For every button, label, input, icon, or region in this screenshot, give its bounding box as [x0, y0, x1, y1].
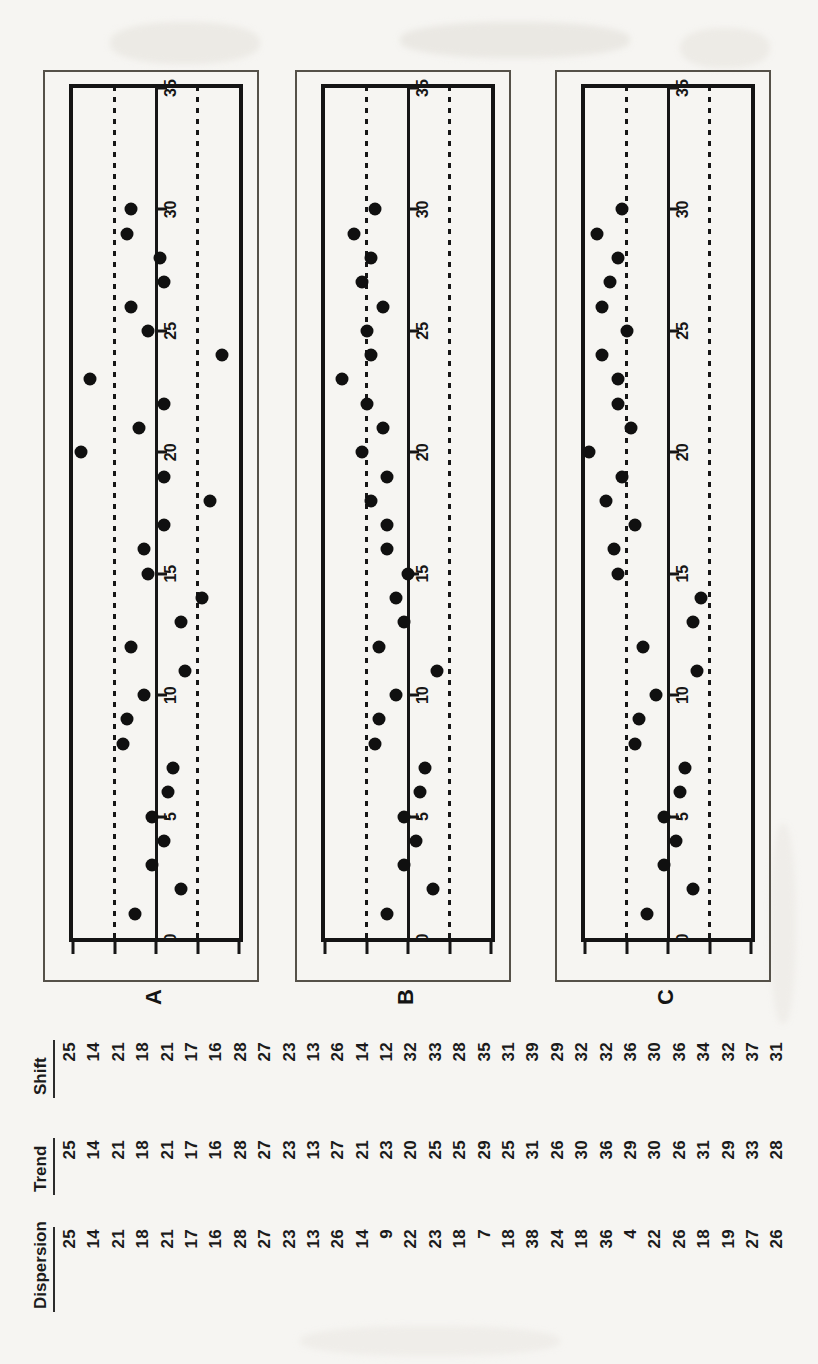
table-cell-shift: 14	[82, 1040, 106, 1098]
data-point	[137, 689, 150, 702]
table-cell-shift: 28	[448, 1040, 472, 1098]
data-point	[397, 859, 410, 872]
y-axis-tick	[750, 942, 753, 954]
data-point	[83, 373, 96, 386]
data-point	[120, 713, 133, 726]
plot-area-B: 05101520253035	[321, 84, 495, 942]
data-point	[397, 810, 410, 823]
x-axis-tick-label: 15	[675, 565, 691, 583]
table-cell-dispersion: 24	[546, 1227, 570, 1312]
column-cells-dispersion: 2514211821171628272313261492223187183824…	[58, 1227, 790, 1312]
rotated-page-content: Dispersion 25142118211716282723132614922…	[0, 0, 818, 1364]
table-cell-shift: 32	[595, 1040, 619, 1098]
table-cell-dispersion: 36	[595, 1227, 619, 1312]
data-point	[356, 446, 369, 459]
table-cell-dispersion: 22	[399, 1227, 423, 1312]
table-cell-dispersion: 19	[717, 1227, 741, 1312]
data-point	[145, 859, 158, 872]
data-point	[612, 373, 625, 386]
table-cell-dispersion: 18	[692, 1227, 716, 1312]
data-point	[612, 252, 625, 265]
scan-smudge	[300, 1326, 560, 1356]
table-cell-dispersion: 27	[253, 1227, 277, 1312]
table-cell-trend: 21	[107, 1138, 131, 1195]
x-axis-tick-label: 0	[415, 934, 431, 943]
chart-label-B: B	[393, 984, 419, 1010]
data-point	[166, 762, 179, 775]
x-axis-tick-label: 20	[675, 443, 691, 461]
table-cell-trend: 26	[546, 1138, 570, 1195]
data-point	[377, 300, 390, 313]
column-header-shift: Shift	[30, 1040, 55, 1098]
data-point	[670, 834, 683, 847]
data-point	[657, 810, 670, 823]
table-cell-dispersion: 26	[765, 1227, 789, 1312]
table-cell-trend: 31	[692, 1138, 716, 1195]
data-point	[174, 883, 187, 896]
data-point	[120, 227, 133, 240]
table-cell-dispersion: 13	[302, 1227, 326, 1312]
table-cell-trend: 20	[399, 1138, 423, 1195]
table-cell-dispersion: 27	[741, 1227, 765, 1312]
data-point	[158, 470, 171, 483]
y-axis-tick	[324, 942, 327, 954]
run-chart-B: B 05101520253035	[295, 70, 511, 982]
data-point	[158, 519, 171, 532]
table-cell-dispersion: 18	[448, 1227, 472, 1312]
data-point	[628, 519, 641, 532]
table-cell-trend: 23	[278, 1138, 302, 1195]
data-point	[141, 567, 154, 580]
data-point	[608, 543, 621, 556]
data-point	[372, 640, 385, 653]
y-axis-tick	[490, 942, 493, 954]
y-axis-tick	[407, 942, 410, 954]
table-cell-shift: 21	[156, 1040, 180, 1098]
table-cell-dispersion: 16	[204, 1227, 228, 1312]
table-cell-trend: 28	[229, 1138, 253, 1195]
lower-control-limit-line	[448, 88, 451, 938]
data-point	[678, 762, 691, 775]
table-cell-shift: 23	[278, 1040, 302, 1098]
table-cell-dispersion: 7	[473, 1227, 497, 1312]
table-cell-trend: 29	[619, 1138, 643, 1195]
x-axis-tick-label: 10	[163, 686, 179, 704]
data-point	[116, 737, 129, 750]
table-cell-dispersion: 23	[278, 1227, 302, 1312]
table-cell-trend: 18	[131, 1138, 155, 1195]
x-axis-tick-label: 35	[415, 79, 431, 97]
data-point	[129, 907, 142, 920]
table-cell-shift: 14	[351, 1040, 375, 1098]
data-point	[583, 446, 596, 459]
data-point	[686, 883, 699, 896]
table-cell-trend: 29	[473, 1138, 497, 1195]
y-axis-tick	[708, 942, 711, 954]
data-point	[628, 737, 641, 750]
data-point	[402, 567, 415, 580]
y-axis-tick	[448, 942, 451, 954]
data-point	[372, 713, 385, 726]
x-axis-tick-label: 20	[415, 443, 431, 461]
table-cell-trend: 17	[180, 1138, 204, 1195]
table-cell-trend: 30	[643, 1138, 667, 1195]
table-cell-trend: 21	[156, 1138, 180, 1195]
data-point	[335, 373, 348, 386]
table-cell-shift: 39	[521, 1040, 545, 1098]
table-cell-dispersion: 17	[180, 1227, 204, 1312]
table-column-dispersion: Dispersion 25142118211716282723132614922…	[30, 1227, 790, 1312]
data-point	[641, 907, 654, 920]
table-cell-shift: 12	[375, 1040, 399, 1098]
data-point	[364, 252, 377, 265]
x-axis-tick-label: 5	[675, 812, 691, 821]
data-point	[364, 494, 377, 507]
x-axis-tick-label: 30	[675, 201, 691, 219]
y-axis-tick	[196, 942, 199, 954]
data-point	[686, 616, 699, 629]
table-cell-trend: 36	[595, 1138, 619, 1195]
table-cell-trend: 33	[741, 1138, 765, 1195]
y-axis-tick	[238, 942, 241, 954]
data-point	[414, 786, 427, 799]
x-axis-tick-label: 30	[163, 201, 179, 219]
table-cell-shift: 31	[765, 1040, 789, 1098]
run-chart-C: C 05101520253035	[555, 70, 771, 982]
table-cell-shift: 35	[473, 1040, 497, 1098]
